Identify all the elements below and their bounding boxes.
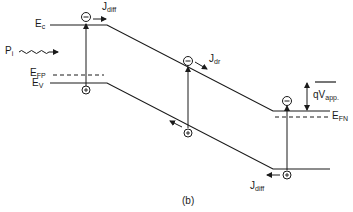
jdiff-bottom-label: Jdiff: [250, 181, 264, 192]
jdiff-top-label: Jdiff: [102, 2, 116, 13]
jdr-label-sub: dr: [214, 58, 220, 65]
jdiff-bottom-label-sub: diff: [255, 185, 264, 192]
ev-label-sub: V: [39, 82, 44, 89]
pi-label-main: P: [5, 45, 12, 56]
jdr-label: Jdr: [209, 54, 220, 65]
jdr-hole-arrow: [170, 121, 182, 127]
ev-label: EV: [32, 78, 43, 89]
qvapp-label: qVapp.: [313, 90, 339, 101]
ec-label-main: E: [35, 18, 42, 29]
ec-label: Ec: [35, 19, 45, 30]
efn-label-main: E: [332, 110, 339, 121]
qvapp-label-sub: app.: [325, 94, 339, 101]
ev-label-main: E: [32, 77, 39, 88]
photon-wave-icon: [19, 51, 49, 54]
efn-label-sub: FN: [339, 115, 348, 122]
hole-icon: [82, 86, 90, 94]
hole-icon: [184, 129, 192, 137]
efn-label: EFN: [332, 111, 348, 122]
jdr-electron-arrow: [195, 62, 207, 69]
jdiff-top-label-sub: diff: [107, 6, 116, 13]
electron-icon: [283, 97, 292, 106]
band-diagram: [0, 0, 353, 212]
pi-label-sub: i: [12, 50, 14, 57]
electron-icon: [184, 57, 193, 66]
qvapp-label-main: qV: [313, 89, 325, 100]
electron-icon: [82, 13, 91, 22]
figure-caption: (b): [182, 196, 194, 206]
ec-label-sub: c: [42, 23, 46, 30]
valence-band-edge: [50, 83, 330, 169]
pi-label: Pi: [5, 46, 13, 57]
hole-icon: [283, 171, 291, 179]
